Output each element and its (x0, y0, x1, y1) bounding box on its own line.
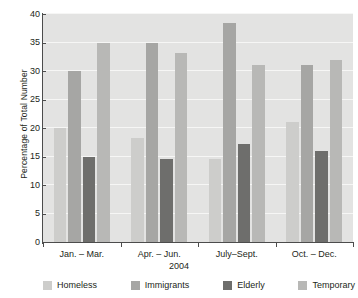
legend-swatch-icon (298, 281, 307, 290)
bar[interactable] (175, 53, 188, 242)
y-axis-tick-label: 30 (18, 67, 40, 76)
y-axis-tick-label: 15 (18, 152, 40, 161)
y-axis-tick-label: 40 (18, 10, 40, 19)
legend-label: Elderly (237, 280, 265, 290)
bar[interactable] (160, 159, 173, 242)
bar[interactable] (301, 65, 314, 242)
bar[interactable] (54, 128, 67, 242)
x-axis-tick-mark (43, 243, 44, 247)
bar-group (43, 14, 121, 242)
x-axis-tick-label: Jan. – Mar. (43, 249, 121, 259)
legend-swatch-icon (131, 281, 140, 290)
bar[interactable] (146, 43, 159, 243)
bars-layer (43, 14, 353, 242)
bar[interactable] (315, 151, 328, 242)
bar-group (198, 14, 276, 242)
x-axis-tick-mark (121, 243, 122, 247)
legend-swatch-icon (223, 281, 232, 290)
bar-group (276, 14, 354, 242)
x-axis-tick-label: July–Sept. (198, 249, 276, 259)
y-axis-tick-label: 0 (18, 238, 40, 247)
legend-label: Temporary (312, 280, 355, 290)
legend-label: Homeless (57, 280, 97, 290)
y-axis-tick-labels: 0510152025303540 (14, 0, 40, 298)
legend-swatch-icon (43, 281, 52, 290)
bar[interactable] (68, 71, 81, 242)
bar[interactable] (252, 65, 265, 242)
x-axis-tick-mark (276, 243, 277, 247)
x-axis-title: 2004 (0, 261, 358, 271)
bar[interactable] (330, 60, 343, 242)
bar[interactable] (209, 159, 222, 242)
legend-item-immigrants[interactable]: Immigrants (131, 280, 190, 290)
bar[interactable] (223, 23, 236, 242)
y-axis-tick-label: 25 (18, 95, 40, 104)
y-axis-tick-label: 10 (18, 181, 40, 190)
bar-chart: Percentage of Total Number 0510152025303… (0, 0, 358, 298)
y-axis-tick-label: 20 (18, 124, 40, 133)
x-axis-tick-label: Oct. – Dec. (276, 249, 354, 259)
bar-group (121, 14, 199, 242)
x-axis-tick-mark (198, 243, 199, 247)
bar[interactable] (238, 144, 251, 242)
bar[interactable] (97, 43, 110, 243)
y-axis-tick-label: 35 (18, 38, 40, 47)
legend-item-homeless[interactable]: Homeless (43, 280, 97, 290)
bar[interactable] (83, 157, 96, 243)
legend-item-temporary[interactable]: Temporary (298, 280, 355, 290)
legend-item-elderly[interactable]: Elderly (223, 280, 265, 290)
x-axis-tick-label: Apr. – Jun. (121, 249, 199, 259)
legend-label: Immigrants (145, 280, 190, 290)
legend: HomelessImmigrantsElderlyTemporary (43, 277, 355, 293)
bar[interactable] (286, 122, 299, 242)
x-axis-tick-mark (353, 243, 354, 247)
bar[interactable] (131, 138, 144, 242)
y-axis-tick-label: 5 (18, 209, 40, 218)
chart-title-sliver (0, 0, 358, 5)
